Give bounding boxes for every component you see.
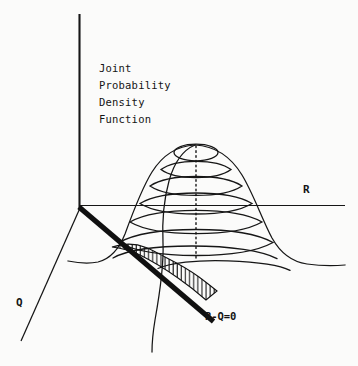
jpdf-3d-diagram: Joint Probability Density Function R Q R… bbox=[0, 0, 358, 366]
caption-line-1: Joint bbox=[99, 62, 132, 74]
caption-line-3: Density bbox=[99, 96, 145, 108]
figure-root: Joint Probability Density Function R Q R… bbox=[0, 0, 358, 366]
caption-line-4: Function bbox=[99, 113, 151, 125]
cutting-plane-line-rq0 bbox=[79, 207, 214, 322]
caption-line-2: Probability bbox=[99, 79, 171, 91]
axis-label-r: R bbox=[303, 183, 310, 196]
axis-label-q: Q bbox=[16, 296, 23, 309]
cutting-plane-label: R-Q=0 bbox=[205, 310, 236, 322]
depth-axis-q bbox=[21, 208, 80, 341]
